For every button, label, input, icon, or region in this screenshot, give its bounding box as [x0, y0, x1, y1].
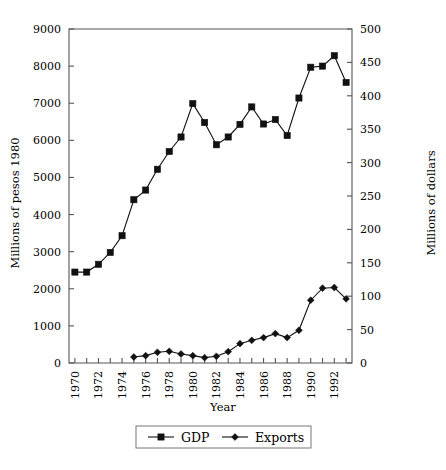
data-point-marker: [130, 354, 137, 361]
x-axis-tick-label: 1970: [69, 371, 82, 399]
data-point-marker: [166, 148, 172, 154]
y-axis-right-tick-label: 250: [360, 190, 381, 203]
data-point-marker: [84, 269, 90, 275]
data-point-marker: [272, 116, 278, 122]
y-axis-right-tick-label: 100: [360, 290, 381, 303]
y-axis-left-tick-label: 4000: [33, 209, 61, 222]
y-axis-left-tick-label: 7000: [33, 97, 61, 110]
legend-label-exports: Exports: [255, 430, 304, 445]
data-point-marker: [178, 134, 184, 140]
data-point-marker: [284, 132, 290, 138]
y-axis-left-tick-label: 3000: [33, 246, 61, 259]
y-axis-right-tick-label: 200: [360, 223, 381, 236]
x-axis-tick-label: 1990: [305, 371, 318, 399]
y-axis-left-tick-label: 9000: [33, 23, 61, 36]
y-axis-right-title: Millions of dollars: [424, 118, 438, 288]
legend-label-gdp: GDP: [181, 430, 209, 445]
data-point-marker: [95, 261, 101, 267]
data-point-marker: [331, 53, 337, 59]
x-axis-tick-label: 1986: [258, 371, 271, 399]
series-gdp: [72, 53, 349, 276]
x-axis-title: Year: [0, 400, 446, 414]
data-point-marker: [296, 327, 303, 334]
y-axis-right-tick-label: 0: [360, 357, 367, 370]
data-point-marker: [284, 334, 291, 341]
x-axis-tick-label: 1988: [281, 371, 294, 399]
data-point-marker: [296, 95, 302, 101]
data-point-marker: [237, 340, 244, 347]
y-axis-left-tick-label: 5000: [33, 171, 61, 184]
x-axis-tick-label: 1982: [210, 371, 223, 399]
data-point-marker: [201, 354, 208, 361]
series-exports: [130, 284, 349, 361]
y-axis-left-tick-label: 1000: [33, 320, 61, 333]
x-axis-tick-label: 1980: [187, 371, 200, 399]
x-axis-tick-label: 1992: [328, 371, 341, 399]
y-axis-right-tick-label: 400: [360, 90, 381, 103]
data-point-marker: [154, 166, 160, 172]
data-point-marker: [249, 104, 255, 110]
x-axis-tick-label: 1978: [163, 371, 176, 399]
x-axis-tick-label: 1976: [140, 371, 153, 399]
y-axis-left-ticks: 0100020003000400050006000700080009000: [33, 23, 74, 370]
data-point-marker: [143, 187, 149, 193]
data-point-marker: [202, 119, 208, 125]
data-point-marker: [190, 100, 196, 106]
x-axis-tick-label: 1974: [116, 371, 129, 399]
y-axis-left-tick-label: 0: [54, 357, 61, 370]
data-point-marker: [248, 337, 255, 344]
data-point-marker: [213, 142, 219, 148]
data-point-marker: [272, 330, 279, 337]
x-axis-ticks: 1970197219741976197819801982198419861988…: [69, 358, 346, 399]
y-axis-right-tick-label: 300: [360, 157, 381, 170]
y-axis-left-tick-label: 6000: [33, 134, 61, 147]
data-point-marker: [319, 63, 325, 69]
data-point-marker: [72, 269, 78, 275]
chart-figure: 0100020003000400050006000700080009000 05…: [0, 0, 446, 470]
data-point-marker: [213, 353, 220, 360]
y-axis-right-tick-label: 350: [360, 123, 381, 136]
data-point-marker: [260, 334, 267, 341]
data-point-marker: [178, 351, 185, 358]
x-axis-tick-label: 1984: [234, 371, 247, 399]
data-point-marker: [237, 121, 243, 127]
x-axis-tick-label: 1972: [92, 371, 105, 399]
data-point-marker: [308, 64, 314, 70]
data-point-marker: [154, 349, 161, 356]
data-point-marker: [131, 197, 137, 203]
data-point-marker: [166, 348, 173, 355]
data-point-marker: [142, 352, 149, 359]
y-axis-left-tick-label: 2000: [33, 283, 61, 296]
y-axis-left-title: Millions of pesos 1980: [8, 118, 22, 288]
y-axis-left-tick-label: 8000: [33, 60, 61, 73]
data-series: [72, 53, 350, 361]
y-axis-right-tick-label: 150: [360, 257, 381, 270]
data-point-marker: [189, 352, 196, 359]
data-point-marker: [260, 121, 266, 127]
data-point-marker: [158, 434, 164, 440]
data-point-marker: [343, 79, 349, 85]
y-axis-right-tick-label: 500: [360, 23, 381, 36]
y-axis-right-tick-label: 50: [360, 324, 374, 337]
data-point-marker: [225, 134, 231, 140]
chart-legend: GDPExports: [136, 426, 311, 448]
data-point-marker: [119, 233, 125, 239]
data-point-marker: [225, 348, 232, 355]
data-point-marker: [107, 249, 113, 255]
y-axis-right-tick-label: 450: [360, 56, 381, 69]
plot-frame: [69, 29, 352, 363]
